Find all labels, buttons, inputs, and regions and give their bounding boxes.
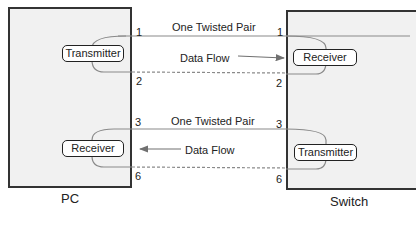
- switch-pin-3: 3: [276, 118, 282, 130]
- switch-pin-1: 1: [277, 26, 283, 38]
- switch-pin-6: 6: [276, 173, 282, 185]
- switch-pin-2: 2: [276, 77, 282, 89]
- pair-1-flow-label: Data Flow: [180, 52, 230, 64]
- pc-caption: PC: [61, 191, 79, 206]
- pc-receiver: Receiver: [62, 140, 124, 157]
- pair-2-flow-label: Data Flow: [185, 144, 235, 156]
- pc-pin-1: 1: [136, 26, 142, 38]
- pair-1-label: One Twisted Pair: [172, 21, 256, 33]
- switch-caption: Switch: [330, 194, 368, 209]
- pair-2-label: One Twisted Pair: [171, 115, 255, 127]
- switch-receiver: Receiver: [293, 49, 357, 66]
- data-flow-arrow-right: [238, 56, 284, 58]
- switch-transmitter: Transmitter: [294, 144, 357, 161]
- pc-pin-6: 6: [135, 170, 141, 182]
- pc-transmitter: Transmitter: [62, 45, 124, 62]
- twisted-pair-1: [92, 36, 410, 74]
- pc-pin-3: 3: [135, 116, 141, 128]
- pc-pin-2: 2: [136, 75, 142, 87]
